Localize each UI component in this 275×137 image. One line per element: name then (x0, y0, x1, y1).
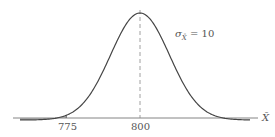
sigma-subscript: X̄ (182, 34, 187, 42)
sigma-label: σX̄ = 10 (175, 29, 214, 42)
tick-label-775: 775 (58, 122, 77, 132)
x-axis-label: X̄ (262, 113, 269, 123)
normal-curve-chart (0, 0, 275, 137)
tick-label-800: 800 (131, 122, 150, 132)
sigma-value: = 10 (190, 28, 214, 39)
sigma-symbol: σ (175, 28, 182, 39)
normal-curve (20, 13, 250, 120)
